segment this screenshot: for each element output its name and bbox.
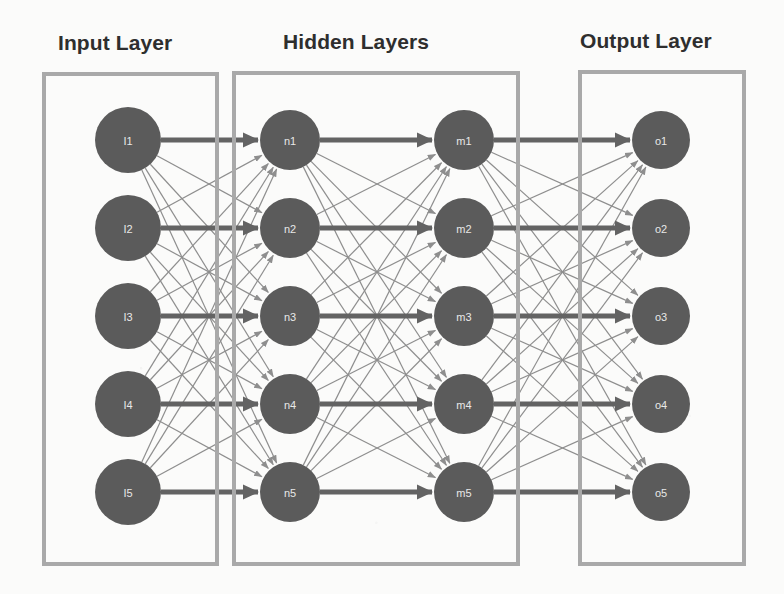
- hidden-layers-title: Hidden Layers: [283, 30, 429, 54]
- output-layer-title: Output Layer: [580, 29, 712, 53]
- neural-network-diagram: I1I2I3I4I5n1n2n3n4n5m1m2m3m4m5o1o2o3o4o5…: [0, 0, 784, 594]
- input-layer-title: Input Layer: [58, 31, 172, 55]
- hidden-layers-box: [232, 71, 520, 566]
- input-layer-box: [42, 72, 219, 566]
- output-layer-box: [578, 70, 746, 566]
